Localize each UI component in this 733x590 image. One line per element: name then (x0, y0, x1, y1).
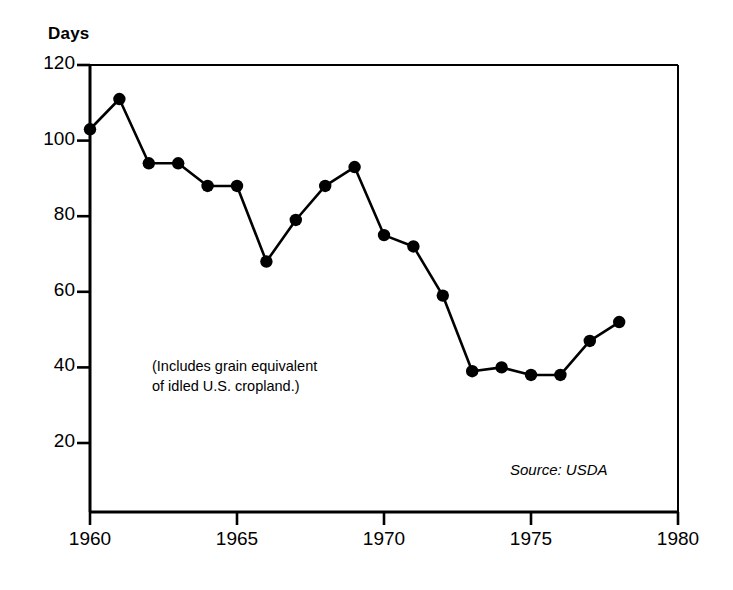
y-tick-label: 60 (23, 279, 75, 301)
data-line (90, 99, 619, 375)
data-point-markers (84, 93, 626, 381)
data-point-marker (378, 229, 390, 241)
y-tick-marks (77, 65, 90, 443)
data-point-marker (613, 316, 625, 328)
data-point-marker (348, 161, 360, 173)
data-point-marker (84, 123, 96, 135)
data-point-marker (319, 180, 331, 192)
line-chart-plot (0, 0, 733, 590)
data-point-marker (290, 214, 302, 226)
data-point-marker (113, 93, 125, 105)
y-tick-label: 120 (23, 52, 75, 74)
data-point-marker (260, 255, 272, 267)
data-point-marker (437, 289, 449, 301)
data-point-marker (584, 335, 596, 347)
data-point-marker (143, 157, 155, 169)
data-point-marker (466, 365, 478, 377)
data-point-marker (407, 240, 419, 252)
axis-group (90, 65, 678, 512)
x-tick-label: 1975 (496, 528, 566, 550)
y-tick-label: 100 (23, 128, 75, 150)
data-point-marker (525, 369, 537, 381)
source-note: Source: USDA (510, 461, 608, 478)
x-tick-label: 1960 (55, 528, 125, 550)
y-tick-label: 20 (23, 430, 75, 452)
x-tick-label: 1970 (349, 528, 419, 550)
chart-container: Days 20406080100120 19601965197019751980… (0, 0, 733, 590)
y-tick-label: 80 (23, 203, 75, 225)
includes-note: (Includes grain equivalent of idled U.S.… (152, 357, 317, 396)
data-point-marker (231, 180, 243, 192)
data-point-marker (554, 369, 566, 381)
data-point-marker (201, 180, 213, 192)
x-tick-label: 1980 (643, 528, 713, 550)
y-tick-label: 40 (23, 354, 75, 376)
data-point-marker (172, 157, 184, 169)
x-tick-marks (90, 512, 678, 525)
data-point-marker (495, 361, 507, 373)
x-tick-label: 1965 (202, 528, 272, 550)
